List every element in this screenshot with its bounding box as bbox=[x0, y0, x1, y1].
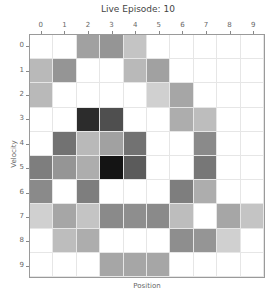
y-tick-label: 0 bbox=[14, 41, 24, 49]
x-tick-label: 4 bbox=[128, 21, 142, 29]
heatmap-cell: 0.5 bbox=[194, 132, 217, 156]
heatmap-cell: 0.2 bbox=[30, 204, 53, 228]
heatmap-cell: 0.45 bbox=[53, 156, 76, 180]
heatmap-cell: 0 bbox=[53, 35, 76, 59]
heatmap-cell: 0.45 bbox=[100, 35, 123, 59]
heatmap-cell: 0 bbox=[124, 180, 147, 204]
heatmap-cell: 0 bbox=[124, 83, 147, 107]
heatmap-cell: 0.35 bbox=[77, 229, 100, 253]
heatmap-cell: 0.38 bbox=[217, 204, 240, 228]
heatmap-cell: 0.38 bbox=[100, 253, 123, 277]
heatmap-cell: 0.7 bbox=[124, 156, 147, 180]
heatmap-cell: 0 bbox=[77, 83, 100, 107]
heatmap-cell: 0 bbox=[100, 59, 123, 83]
heatmap-cell: 0 bbox=[30, 108, 53, 132]
heatmap-cell: 0.45 bbox=[53, 59, 76, 83]
heatmap-cell: 0.35 bbox=[170, 108, 193, 132]
heatmap-cell: 0.2 bbox=[147, 83, 170, 107]
heatmap-cell: 0 bbox=[100, 180, 123, 204]
heatmap-cell: 0 bbox=[170, 132, 193, 156]
heatmap-cell: 0 bbox=[241, 108, 264, 132]
heatmap-cell: 0.4 bbox=[100, 132, 123, 156]
heatmap-cell: 0 bbox=[53, 83, 76, 107]
heatmap-cell: 0.48 bbox=[170, 229, 193, 253]
x-tick-label: 2 bbox=[81, 21, 95, 29]
heatmap-cell: 0.28 bbox=[53, 229, 76, 253]
x-axis-label: Position bbox=[29, 282, 265, 290]
heatmap-cell: 0 bbox=[30, 35, 53, 59]
heatmap-cell: 0.28 bbox=[170, 204, 193, 228]
heatmap-cell: 0.5 bbox=[147, 204, 170, 228]
heatmap-cell: 0 bbox=[100, 229, 123, 253]
heatmap-cell: 0 bbox=[194, 35, 217, 59]
y-tick-label: 6 bbox=[14, 188, 24, 196]
x-tick-label: 1 bbox=[57, 21, 71, 29]
heatmap-cell: 0 bbox=[241, 156, 264, 180]
heatmap-cell: 0 bbox=[147, 108, 170, 132]
heatmap-cell: 0 bbox=[217, 180, 240, 204]
heatmap-cell: 0.6 bbox=[53, 132, 76, 156]
heatmap-cell: 0.45 bbox=[194, 229, 217, 253]
heatmap-cell: 0 bbox=[53, 108, 76, 132]
heatmap-cell: 0 bbox=[147, 132, 170, 156]
heatmap-cell: 0 bbox=[217, 253, 240, 277]
heatmap-cell: 0.5 bbox=[30, 180, 53, 204]
heatmap-cell: 0 bbox=[241, 253, 264, 277]
heatmap-cell: 0.2 bbox=[217, 229, 240, 253]
heatmap-cell: 0 bbox=[147, 229, 170, 253]
y-axis-label: Velocity bbox=[10, 134, 18, 174]
heatmap-cell: 0 bbox=[241, 229, 264, 253]
y-tick-label: 8 bbox=[14, 236, 24, 244]
heatmap-cell: 0 bbox=[217, 156, 240, 180]
heatmap-cell: 0 bbox=[77, 59, 100, 83]
heatmap-cell: 0.6 bbox=[124, 132, 147, 156]
heatmap-cell: 0 bbox=[170, 35, 193, 59]
x-tick-label: 3 bbox=[105, 21, 119, 29]
heatmap-cell: 0.48 bbox=[124, 204, 147, 228]
heatmap-cell: 0 bbox=[77, 253, 100, 277]
heatmap-cell: 0 bbox=[194, 253, 217, 277]
heatmap-cell: 0.3 bbox=[30, 83, 53, 107]
y-tick-label: 9 bbox=[14, 261, 24, 269]
heatmap-cell: 0 bbox=[241, 180, 264, 204]
heatmap-cell: 0.5 bbox=[100, 204, 123, 228]
y-tick-label: 1 bbox=[14, 66, 24, 74]
heatmap-cell: 0.4 bbox=[77, 35, 100, 59]
heatmap-cell: 0 bbox=[147, 35, 170, 59]
y-tick-label: 3 bbox=[14, 114, 24, 122]
x-tick-label: 0 bbox=[34, 21, 48, 29]
heatmap-cell: 0.25 bbox=[124, 35, 147, 59]
x-tick-label: 6 bbox=[175, 21, 189, 29]
heatmap-cell: 1 bbox=[100, 156, 123, 180]
heatmap-cell: 0.55 bbox=[77, 180, 100, 204]
heatmap-cell: 0.55 bbox=[30, 156, 53, 180]
heatmap-cell: 0 bbox=[217, 35, 240, 59]
heatmap-cell: 0 bbox=[217, 108, 240, 132]
heatmap-cell: 0 bbox=[30, 132, 53, 156]
x-tick-label: 7 bbox=[199, 21, 213, 29]
heatmap-cell: 0.38 bbox=[170, 83, 193, 107]
heatmap-cell: 0.38 bbox=[53, 204, 76, 228]
heatmap-cell: 0 bbox=[170, 253, 193, 277]
heatmap-cell: 0 bbox=[170, 59, 193, 83]
heatmap-cell: 0.4 bbox=[147, 59, 170, 83]
heatmap-cell: 0 bbox=[30, 253, 53, 277]
heatmap-cell: 0 bbox=[217, 59, 240, 83]
heatmap-cell: 0 bbox=[194, 83, 217, 107]
heatmap-cell: 0.35 bbox=[194, 180, 217, 204]
heatmap-cell: 0.25 bbox=[241, 204, 264, 228]
heatmap-cell: 0 bbox=[53, 180, 76, 204]
heatmap-cell: 0 bbox=[124, 108, 147, 132]
heatmap-cell: 0 bbox=[194, 59, 217, 83]
heatmap-cell: 0 bbox=[241, 35, 264, 59]
heatmap-cell: 0 bbox=[241, 132, 264, 156]
heatmap-cell: 0 bbox=[30, 229, 53, 253]
heatmap-cell: 0 bbox=[147, 180, 170, 204]
heatmap-cell: 0.3 bbox=[77, 132, 100, 156]
heatmap-cell: 0 bbox=[147, 156, 170, 180]
heatmap-cell: 0.38 bbox=[147, 253, 170, 277]
heatmap-cell: 0 bbox=[53, 253, 76, 277]
chart-title: Live Episode: 10 bbox=[0, 4, 276, 14]
y-tick-label: 7 bbox=[14, 212, 24, 220]
heatmap-cell: 0 bbox=[241, 59, 264, 83]
